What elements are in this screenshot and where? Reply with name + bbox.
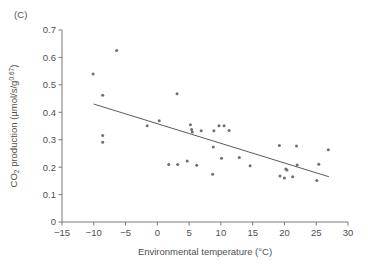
x-tick-label: −15 <box>54 227 70 238</box>
y-axis-title: CO2 production (µmol/s/g0.67) <box>8 65 20 188</box>
y-tick-label: 0.2 <box>43 162 56 173</box>
data-point <box>92 72 95 75</box>
x-tick-label: 20 <box>279 227 290 238</box>
data-point <box>327 148 330 151</box>
data-point <box>238 156 241 159</box>
x-tick-label: 0 <box>155 227 160 238</box>
y-tick-label: 0.4 <box>43 107 56 118</box>
data-point <box>295 145 298 148</box>
data-point <box>283 177 286 180</box>
y-axis: 00.10.20.30.40.50.60.7 <box>43 24 62 227</box>
data-point <box>220 157 223 160</box>
data-point <box>211 173 214 176</box>
x-tick-label: 30 <box>343 227 354 238</box>
data-point <box>115 49 118 52</box>
x-tick-label: 15 <box>247 227 258 238</box>
x-axis-title: Environmental temperature (°C) <box>138 246 272 257</box>
y-tick-label: 0.1 <box>43 189 56 200</box>
data-point <box>212 146 215 149</box>
data-point <box>176 92 179 95</box>
data-point <box>315 179 318 182</box>
x-tick-label: 25 <box>311 227 322 238</box>
x-tick-label: −10 <box>86 227 102 238</box>
data-point <box>200 129 203 132</box>
data-point <box>223 124 226 127</box>
data-point <box>212 129 215 132</box>
data-point <box>167 163 170 166</box>
y-tick-label: 0 <box>51 216 56 227</box>
data-point <box>101 134 104 137</box>
data-point <box>158 119 161 122</box>
data-point <box>285 168 288 171</box>
y-tick-label: 0.6 <box>43 52 56 63</box>
data-point <box>101 94 104 97</box>
y-tick-label: 0.7 <box>43 24 56 35</box>
y-tick-label: 0.3 <box>43 134 56 145</box>
figure-container: (C) 00.10.20.30.40.50.60.7 −15−10−505101… <box>0 0 368 271</box>
data-point <box>291 175 294 178</box>
data-point <box>176 163 179 166</box>
x-axis: −15−10−5051015202530 <box>54 222 353 238</box>
data-point <box>317 163 320 166</box>
data-point <box>278 144 281 147</box>
data-point <box>249 164 252 167</box>
regression-line <box>94 104 329 177</box>
data-point <box>146 124 149 127</box>
data-point <box>186 160 189 163</box>
x-tick-label: −5 <box>120 227 131 238</box>
trend-line-group <box>94 104 329 177</box>
data-point <box>228 129 231 132</box>
x-tick-label: 5 <box>186 227 191 238</box>
data-point <box>195 164 198 167</box>
data-point <box>101 141 104 144</box>
data-point <box>189 123 192 126</box>
scatter-plot: 00.10.20.30.40.50.60.7 −15−10−5051015202… <box>0 0 368 271</box>
x-tick-label: 10 <box>216 227 227 238</box>
data-point <box>217 124 220 127</box>
data-point <box>296 163 299 166</box>
data-points-group <box>92 49 330 182</box>
data-point <box>279 174 282 177</box>
y-tick-label: 0.5 <box>43 79 56 90</box>
data-point <box>191 131 194 134</box>
